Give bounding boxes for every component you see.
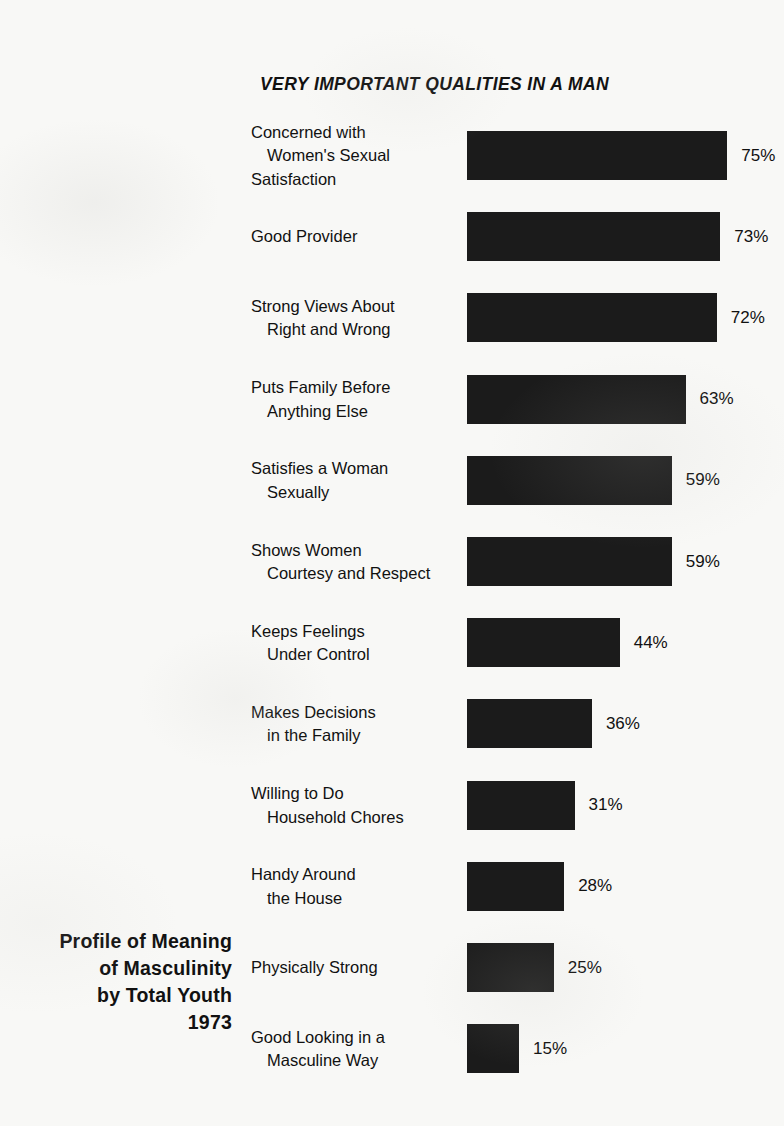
bar: [467, 699, 592, 748]
bar: [467, 293, 717, 342]
bar-category-label-line: Sexually: [251, 480, 461, 504]
bar-row: Satisfies a WomanSexually59%: [0, 456, 784, 505]
bar: [467, 618, 620, 667]
bar-category-label-line: Anything Else: [251, 399, 461, 423]
bar-category-label-line: Masculine Way: [251, 1049, 461, 1073]
bar-category-label: Puts Family BeforeAnything Else: [251, 376, 461, 423]
bar: [467, 537, 672, 586]
bar-row: Good Provider73%: [0, 212, 784, 261]
bar: [467, 375, 686, 424]
bar-category-label-line: the House: [251, 886, 461, 910]
bar-category-label-line: Willing to Do: [251, 782, 461, 806]
caption-line-1: Profile of Meaning: [0, 928, 232, 955]
bar-category-label-line: Right and Wrong: [251, 318, 461, 342]
bar-row: Puts Family BeforeAnything Else63%: [0, 375, 784, 424]
bar-category-label: Keeps FeelingsUnder Control: [251, 619, 461, 666]
bar-category-label: Good Looking in aMasculine Way: [251, 1025, 461, 1072]
bar-row: Strong Views AboutRight and Wrong72%: [0, 293, 784, 342]
bar: [467, 862, 564, 911]
bar-row: Shows WomenCourtesy and Respect59%: [0, 537, 784, 586]
bar-category-label-line: Shows Women: [251, 538, 461, 562]
bar-category-label-line: Keeps Feelings: [251, 619, 461, 643]
bar-category-label-line: Strong Views About: [251, 294, 461, 318]
bar-category-label: Concerned withWomen's SexualSatisfaction: [251, 120, 461, 191]
bar-category-label-line: Makes Decisions: [251, 700, 461, 724]
bar-category-label-line: Women's Sexual: [251, 144, 461, 168]
caption-line-2: of Masculinity: [0, 955, 232, 982]
bar-category-label: Makes Decisionsin the Family: [251, 700, 461, 747]
bar-category-label-line: Satisfies a Woman: [251, 457, 461, 481]
bar-row: Keeps FeelingsUnder Control44%: [0, 618, 784, 667]
bar-category-label-line: Under Control: [251, 643, 461, 667]
bar-category-label: Willing to DoHousehold Chores: [251, 782, 461, 829]
bar: [467, 781, 575, 830]
bar-category-label: Satisfies a WomanSexually: [251, 457, 461, 504]
caption-line-4: 1973: [0, 1009, 232, 1036]
bar-row: Makes Decisionsin the Family36%: [0, 699, 784, 748]
bar: [467, 212, 720, 261]
bar-category-label-line: Concerned with: [251, 120, 461, 144]
bar-row: Concerned withWomen's SexualSatisfaction…: [0, 131, 784, 180]
bar-category-label-line: Satisfaction: [251, 167, 461, 191]
bar-category-label-line: Puts Family Before: [251, 376, 461, 400]
bar-category-label-line: Good Provider: [251, 225, 461, 249]
bar-category-label: Shows WomenCourtesy and Respect: [251, 538, 461, 585]
caption-line-3: by Total Youth: [0, 982, 232, 1009]
bar-row: Handy Aroundthe House28%: [0, 862, 784, 911]
bar-category-label-line: Good Looking in a: [251, 1025, 461, 1049]
bar-value-label: 59%: [686, 470, 720, 490]
bar-value-label: 36%: [606, 714, 640, 734]
bar-value-label: 25%: [568, 958, 602, 978]
bar-value-label: 31%: [589, 795, 623, 815]
bar-category-label-line: in the Family: [251, 724, 461, 748]
bar: [467, 943, 554, 992]
bar: [467, 1024, 519, 1073]
bar-category-label: Strong Views AboutRight and Wrong: [251, 294, 461, 341]
bar-category-label-line: Physically Strong: [251, 956, 461, 980]
bar-value-label: 75%: [741, 146, 775, 166]
bar-category-label: Handy Aroundthe House: [251, 863, 461, 910]
bar: [467, 131, 727, 180]
bar-category-label: Physically Strong: [251, 956, 461, 980]
bar-category-label-line: Household Chores: [251, 805, 461, 829]
bar-value-label: 73%: [734, 227, 768, 247]
bar-value-label: 15%: [533, 1039, 567, 1059]
bar-value-label: 63%: [700, 389, 734, 409]
bar-row: Willing to DoHousehold Chores31%: [0, 781, 784, 830]
bar-category-label-line: Handy Around: [251, 863, 461, 887]
chart-caption: Profile of Meaning of Masculinity by Tot…: [0, 928, 232, 1036]
bar-value-label: 59%: [686, 552, 720, 572]
bar-category-label-line: Courtesy and Respect: [251, 562, 461, 586]
bar: [467, 456, 672, 505]
bar-value-label: 28%: [578, 876, 612, 896]
bar-category-label: Good Provider: [251, 225, 461, 249]
bar-value-label: 72%: [731, 308, 765, 328]
bar-value-label: 44%: [634, 633, 668, 653]
